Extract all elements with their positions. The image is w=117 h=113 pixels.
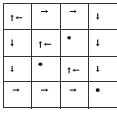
grid-cell-r1-c0 (4, 30, 32, 57)
grid-cell-r2-c3 (89, 57, 117, 82)
grid-cell-r3-c0 (4, 82, 32, 109)
arrow-down-icon (4, 57, 31, 81)
arrow-right-icon (4, 82, 31, 109)
grid-cell-r0-c3 (89, 4, 117, 30)
terminal-dot-icon (89, 82, 117, 109)
arrow-right-icon (61, 4, 88, 29)
arrow-right-icon (32, 82, 60, 109)
grid-cell-r2-c1 (32, 57, 61, 82)
terminal-dot-icon (32, 57, 60, 81)
terminal-dot-icon (61, 30, 88, 56)
grid-cell-r0-c1 (32, 4, 61, 30)
grid-cell-r0-c0 (4, 4, 32, 30)
grid-cell-r1-c1 (32, 30, 61, 57)
arrow-up-left-icon (61, 57, 88, 81)
grid-cell-r1-c3 (89, 30, 117, 57)
grid-cell-r1-c2 (61, 30, 89, 57)
grid-cell-r3-c2 (61, 82, 89, 109)
grid-cell-r2-c2 (61, 57, 89, 82)
arrow-up-left-icon (4, 4, 31, 29)
grid-cell-r0-c2 (61, 4, 89, 30)
arrow-down-icon (89, 30, 117, 56)
arrow-up-left-icon (32, 30, 60, 56)
grid-cell-r3-c1 (32, 82, 61, 109)
policy-grid (3, 3, 117, 108)
arrow-right-icon (32, 4, 60, 29)
grid-cell-r3-c3 (89, 82, 117, 109)
arrow-right-icon (61, 82, 88, 109)
arrow-down-icon (4, 30, 31, 56)
grid-cell-r2-c0 (4, 57, 32, 82)
arrow-down-icon (89, 4, 117, 29)
arrow-down-icon (89, 57, 117, 81)
